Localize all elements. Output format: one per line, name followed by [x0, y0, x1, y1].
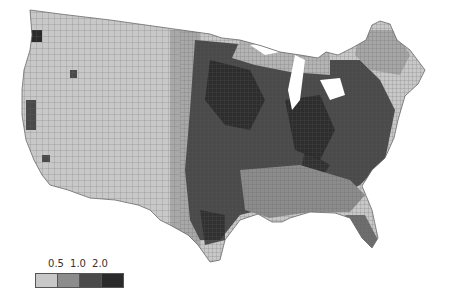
map-fill-layer: [0, 0, 449, 299]
legend-swatch-class-4: [102, 274, 123, 287]
map-legend: 0.5 1.0 2.0: [35, 258, 125, 292]
legend-swatch-class-3: [80, 274, 102, 287]
legend-break-label: 0.5: [48, 258, 64, 269]
legend-break-label: 2.0: [92, 258, 108, 269]
legend-break-labels: 0.5 1.0 2.0: [35, 258, 125, 271]
legend-break-label: 1.0: [70, 258, 86, 269]
legend-swatches: [35, 273, 124, 288]
legend-swatch-class-2: [58, 274, 80, 287]
us-county-choropleth-map: [0, 0, 449, 299]
legend-swatch-class-1: [36, 274, 58, 287]
